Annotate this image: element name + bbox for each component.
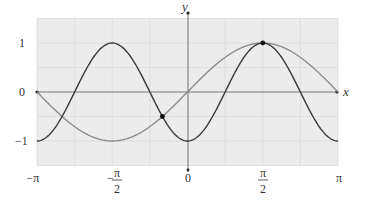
intersection-point <box>160 114 165 119</box>
intersection-point <box>260 41 265 46</box>
y-tick-0: 0 <box>19 85 25 99</box>
x-tick-minus-half-pi-den: 2 <box>114 182 120 196</box>
x-tick-half-pi-num: π <box>260 166 266 180</box>
x-tick-pi: π <box>336 171 342 185</box>
x-tick-half-pi-den: 2 <box>260 182 266 196</box>
x-tick-minus-half-pi-num: π <box>114 166 120 180</box>
x-tick-0: 0 <box>185 171 191 185</box>
x-tick-minus-pi: −π <box>27 171 40 185</box>
y-tick-1: 1 <box>19 36 25 50</box>
chart: x y 1 0 −1 −π − π 2 0 π 2 π <box>0 0 372 204</box>
y-axis-label: y <box>180 0 188 14</box>
x-tick-minus-half-pi-sign: − <box>107 171 114 185</box>
y-tick-minus-1: −1 <box>15 134 28 148</box>
x-axis-label: x <box>342 84 349 99</box>
